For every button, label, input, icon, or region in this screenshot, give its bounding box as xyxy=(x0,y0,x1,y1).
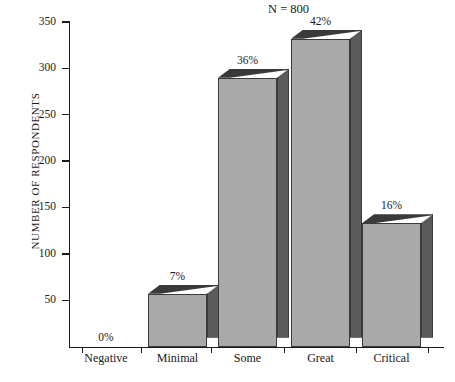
y-tick-label: 150 xyxy=(20,201,56,213)
y-tick-mark xyxy=(62,160,70,161)
x-category-label: Critical xyxy=(347,352,437,364)
bar-value-label: 42% xyxy=(291,16,351,28)
y-tick-label: 200 xyxy=(20,155,56,167)
x-axis-line xyxy=(69,347,444,348)
bar-face xyxy=(148,294,207,347)
y-tick-label: 50 xyxy=(20,294,56,306)
y-tick-label: 350 xyxy=(20,16,56,28)
y-tick-mark xyxy=(62,68,70,69)
y-tick-mark xyxy=(62,300,70,301)
y-tick-label-wrap: 200 xyxy=(20,155,56,167)
y-tick-label-wrap: 350 xyxy=(20,16,56,28)
y-tick-label-wrap: 150 xyxy=(20,201,56,213)
bar-side xyxy=(421,214,433,337)
bar-value-label: 0% xyxy=(76,332,136,344)
bar-value-label: 36% xyxy=(218,55,278,67)
bar-face xyxy=(291,39,350,347)
y-tick-label-wrap: 250 xyxy=(20,109,56,121)
y-tick-label: 250 xyxy=(20,109,56,121)
bar-value-label: 16% xyxy=(362,200,422,212)
bar-face xyxy=(362,223,421,346)
bar-chart: N = 800 NUMBER OF RESPONDENTS 5010015020… xyxy=(0,0,455,382)
bar-side xyxy=(350,30,362,338)
y-tick-label-wrap: 50 xyxy=(20,294,56,306)
y-tick-label: 300 xyxy=(20,62,56,74)
bar-value-label: 7% xyxy=(148,271,208,283)
y-tick-label: 100 xyxy=(20,248,56,260)
y-tick-label-wrap: 300 xyxy=(20,62,56,74)
y-tick-mark xyxy=(62,114,70,115)
bar-side xyxy=(277,69,289,338)
y-tick-mark xyxy=(62,21,70,22)
y-tick-mark xyxy=(62,253,70,254)
y-tick-label-wrap: 100 xyxy=(20,248,56,260)
bar-face xyxy=(218,78,277,347)
y-tick-mark xyxy=(62,207,70,208)
